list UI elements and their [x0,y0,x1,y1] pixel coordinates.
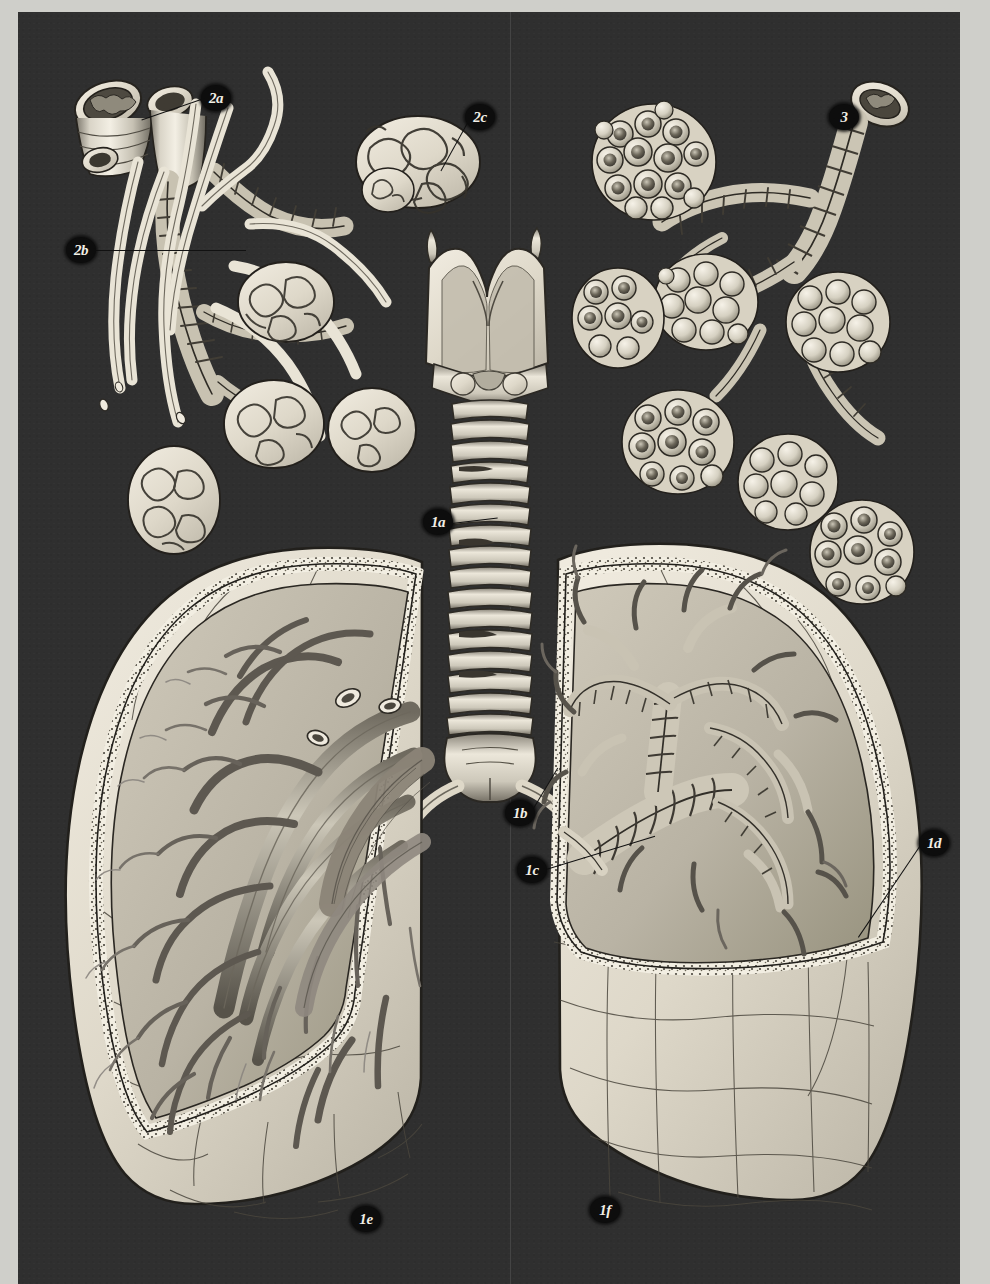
label-1d[interactable]: 1d [919,830,949,856]
label-1a[interactable]: 1a [423,509,453,535]
alveolar-detail [572,73,916,604]
right-lung-figure [534,544,922,1210]
label-2a[interactable]: 2a [201,85,231,111]
label-1e[interactable]: 1e [351,1206,381,1232]
alveolar-sac-cluster-b [654,254,758,350]
alveolar-sac-cluster-f [810,500,914,604]
plate-dark-field: 2a 2c 3 2b 1a 1b 1c 1d 1e 1f [18,12,960,1284]
alveolar-sac-cluster-d [622,390,734,494]
alveolar-sac-cluster-g [572,268,664,368]
tracheal-rings [447,400,533,735]
bronchiole-capillary-detail [69,72,480,554]
left-lung-figure [66,548,430,1219]
leader-2b [96,250,246,251]
alveolar-sac-cluster-e [738,434,838,530]
label-2c[interactable]: 2c [465,104,495,130]
alveolar-sac-cluster-c [786,272,890,372]
anatomical-plate: 2a 2c 3 2b 1a 1b 1c 1d 1e 1f [0,0,990,1284]
label-1c[interactable]: 1c [517,857,547,883]
label-1b[interactable]: 1b [505,800,535,826]
alveolar-sac-cluster-a [592,101,716,220]
label-3[interactable]: 3 [829,104,859,130]
label-2b[interactable]: 2b [66,237,96,263]
anatomy-illustration [18,12,960,1284]
label-1f[interactable]: 1f [590,1197,620,1223]
